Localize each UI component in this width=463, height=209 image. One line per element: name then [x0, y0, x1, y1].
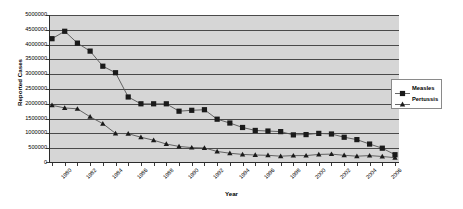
reported-cases-line-chart: Reported Cases 5000000450000040000003500… — [0, 0, 463, 209]
data-point-marker — [176, 109, 181, 114]
x-axis-tick-label: 1988 — [161, 167, 174, 180]
data-point-marker — [215, 117, 220, 122]
data-point-marker — [354, 137, 359, 142]
data-point-marker — [100, 64, 105, 69]
x-axis-tick — [255, 163, 256, 166]
data-point-marker — [189, 108, 194, 113]
x-axis-tick-label: 2004 — [365, 167, 378, 180]
x-axis-tick-label: 2000 — [314, 167, 327, 180]
x-axis-tick — [319, 163, 320, 166]
data-point-marker — [126, 94, 131, 99]
data-point-marker — [100, 121, 105, 126]
data-point-marker — [88, 49, 93, 54]
x-axis-tick-labels: 1980198219841986198819901992199419961998… — [49, 167, 398, 189]
x-axis-tick — [357, 163, 358, 166]
x-axis-tick — [52, 163, 53, 166]
x-axis-tick — [268, 163, 269, 166]
data-point-marker — [227, 120, 232, 125]
x-axis-tick — [116, 163, 117, 166]
x-axis-tick — [395, 163, 396, 166]
x-axis-tick-label: 1982 — [85, 167, 98, 180]
data-point-marker — [164, 101, 169, 106]
data-point-marker — [303, 132, 308, 137]
x-axis-tick — [103, 163, 104, 166]
data-point-marker — [253, 128, 258, 133]
data-point-marker — [138, 101, 143, 106]
y-axis-tick-label: 2500000 — [11, 86, 47, 92]
x-axis-tick — [192, 163, 193, 166]
x-axis-tick-label: 1994 — [237, 167, 250, 180]
data-point-marker — [278, 129, 283, 134]
x-axis-tick — [382, 163, 383, 166]
x-axis-tick — [65, 163, 66, 166]
series-measles — [49, 29, 397, 158]
x-axis-tick — [230, 163, 231, 166]
x-axis-title: Year — [0, 190, 463, 197]
x-axis-tick — [204, 163, 205, 166]
data-point-marker — [342, 135, 347, 140]
legend-item-pertussis: Pertussis — [394, 94, 438, 105]
square-marker-icon — [394, 84, 411, 93]
x-axis-tick-label: 2006 — [390, 167, 403, 180]
x-axis-tick — [154, 163, 155, 166]
data-point-marker — [49, 36, 54, 41]
data-point-marker — [151, 101, 156, 106]
x-axis-tick — [217, 163, 218, 166]
x-axis-tick-label: 1996 — [263, 167, 276, 180]
data-point-marker — [49, 103, 54, 108]
legend-label: Pertussis — [412, 97, 438, 103]
x-axis-tick-label: 1986 — [136, 167, 149, 180]
x-axis-tick — [293, 163, 294, 166]
data-point-marker — [265, 128, 270, 133]
data-point-marker — [202, 107, 207, 112]
triangle-marker-icon — [394, 95, 411, 104]
x-axis-tick-label: 1984 — [110, 167, 123, 180]
series-line — [52, 105, 395, 157]
x-axis-tick — [243, 163, 244, 166]
x-axis-tick-label: 1980 — [60, 167, 73, 180]
data-point-marker — [113, 70, 118, 75]
y-axis-tick-label: 1500000 — [11, 116, 47, 122]
series-pertussis — [49, 103, 397, 160]
data-point-marker — [367, 141, 372, 146]
y-axis-tick-label: 4000000 — [11, 42, 47, 48]
data-point-marker — [87, 114, 92, 119]
x-axis-tick-label: 2002 — [339, 167, 352, 180]
data-point-marker — [291, 132, 296, 137]
x-axis-tick — [331, 163, 332, 166]
y-axis-tick-label: 1000000 — [11, 131, 47, 137]
y-axis-tick-label: 500000 — [11, 145, 47, 151]
data-point-marker — [380, 146, 385, 151]
data-series-layer — [49, 15, 398, 163]
y-axis-tick-label: 2000000 — [11, 101, 47, 107]
data-point-marker — [62, 29, 67, 34]
x-axis-tick — [77, 163, 78, 166]
data-point-marker — [240, 125, 245, 130]
x-axis-tick — [90, 163, 91, 166]
data-point-marker — [75, 41, 80, 46]
y-axis-tick-label: 4500000 — [11, 27, 47, 33]
x-axis-tick-label: 1990 — [187, 167, 200, 180]
y-axis-tick-label: 5000000 — [11, 12, 47, 18]
y-axis-tick-label: 0 — [11, 160, 47, 166]
y-axis-tick-label: 3500000 — [11, 57, 47, 63]
data-point-marker — [316, 131, 321, 136]
x-axis-tick — [179, 163, 180, 166]
x-axis-tick — [344, 163, 345, 166]
x-axis-tick — [166, 163, 167, 166]
y-axis-tick-labels: 5000000450000040000003500000300000025000… — [11, 15, 47, 163]
data-point-marker — [329, 131, 334, 136]
x-axis-tick — [370, 163, 371, 166]
x-axis-tick — [281, 163, 282, 166]
x-axis-tick — [141, 163, 142, 166]
x-axis-tick-label: 1998 — [288, 167, 301, 180]
x-axis-tick — [306, 163, 307, 166]
legend-label: Measles — [412, 86, 435, 92]
y-axis-tick-label: 3000000 — [11, 71, 47, 77]
x-axis-tick — [128, 163, 129, 166]
legend-item-measles: Measles — [394, 83, 438, 94]
chart-legend: MeaslesPertussis — [391, 79, 442, 109]
x-axis-tick-label: 1992 — [212, 167, 225, 180]
